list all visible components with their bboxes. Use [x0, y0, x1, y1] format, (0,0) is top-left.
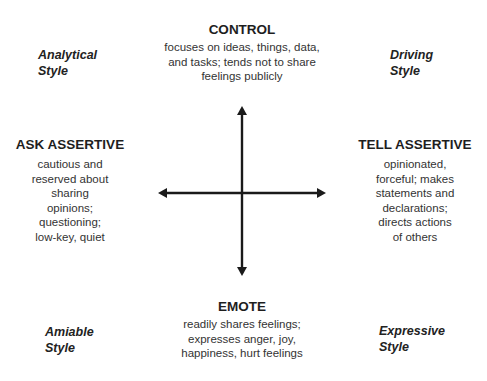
- quadrant-label-line: Style: [38, 63, 97, 79]
- emote-description: readily shares feelings; expresses anger…: [157, 317, 327, 361]
- quadrant-label-line: Style: [45, 340, 94, 356]
- quadrant-label-line: Expressive: [379, 323, 445, 339]
- ask-assertive-line: cautious and: [20, 157, 120, 172]
- tell-assertive-heading: TELL ASSERTIVE: [350, 137, 480, 152]
- tell-assertive-line: declarations;: [362, 201, 468, 216]
- arrow-down-icon: [237, 267, 247, 276]
- emote-line: readily shares feelings;: [157, 317, 327, 332]
- quadrant-label-line: Analytical: [38, 47, 97, 63]
- arrow-up-icon: [237, 106, 247, 115]
- emote-line: expresses anger, joy,: [157, 332, 327, 347]
- quadrant-label-line: Amiable: [45, 324, 94, 340]
- arrow-left-icon: [158, 188, 167, 198]
- tell-assertive-line: forceful; makes: [362, 172, 468, 187]
- control-description: focuses on ideas, things, data, and task…: [152, 40, 332, 84]
- ask-assertive-line: reserved about: [20, 172, 120, 187]
- emote-line: happiness, hurt feelings: [157, 346, 327, 361]
- control-line: and tasks; tends not to share: [152, 55, 332, 70]
- tell-assertive-description: opinionated, forceful; makes statements …: [362, 157, 468, 244]
- control-heading: CONTROL: [192, 22, 292, 37]
- ask-assertive-line: opinions;: [20, 201, 120, 216]
- expressive-style-label: Expressive Style: [379, 323, 445, 355]
- ask-assertive-description: cautious and reserved about sharing opin…: [20, 157, 120, 244]
- amiable-style-label: Amiable Style: [45, 324, 94, 356]
- tell-assertive-line: opinionated,: [362, 157, 468, 172]
- quadrant-label-line: Style: [379, 339, 445, 355]
- ask-assertive-line: sharing: [20, 186, 120, 201]
- control-line: feelings publicly: [152, 69, 332, 84]
- analytical-style-label: Analytical Style: [38, 47, 97, 79]
- ask-assertive-line: questioning;: [20, 215, 120, 230]
- tell-assertive-line: statements and: [362, 186, 468, 201]
- arrow-right-icon: [317, 188, 326, 198]
- ask-assertive-line: low-key, quiet: [20, 230, 120, 245]
- ask-assertive-heading: ASK ASSERTIVE: [10, 137, 130, 152]
- tell-assertive-line: of others: [362, 230, 468, 245]
- driving-style-label: Driving Style: [390, 47, 433, 79]
- quadrant-label-line: Driving: [390, 47, 433, 63]
- quadrant-label-line: Style: [390, 63, 433, 79]
- tell-assertive-line: directs actions: [362, 215, 468, 230]
- emote-heading: EMOTE: [192, 299, 292, 314]
- control-line: focuses on ideas, things, data,: [152, 40, 332, 55]
